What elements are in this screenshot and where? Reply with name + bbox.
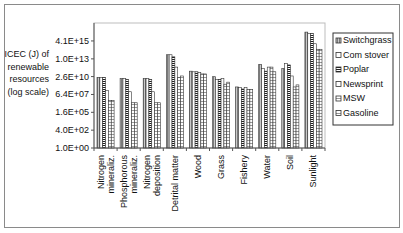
bar-switchgrass (305, 32, 308, 148)
legend-item: Com stover (336, 50, 389, 60)
x-tick-label-line: Soil (285, 155, 295, 170)
x-tick-label-line: Water (262, 155, 272, 179)
bar-newsprint (267, 67, 270, 148)
bar-gasoline (227, 82, 230, 148)
y-tick-label: 2.6E+10 (55, 72, 89, 82)
bar-poplar (103, 77, 106, 148)
bar-com-stover (308, 34, 311, 148)
x-tick-label: Soil (285, 155, 295, 170)
x-tick-label: Phosphorousmineraliz. (119, 155, 139, 209)
x-tick-label: Sunlight (308, 155, 318, 188)
legend-swatch (336, 38, 341, 43)
bar-newsprint (175, 67, 178, 148)
bar-newsprint (221, 79, 224, 148)
legend-item: Switchgrass (336, 35, 392, 45)
bar-gasoline (273, 72, 276, 148)
bar-switchgrass (97, 77, 100, 148)
bar-gasoline (296, 85, 299, 148)
y-axis-title-line: renewable (7, 62, 49, 72)
legend-swatch (336, 53, 341, 58)
bar-msw (270, 67, 273, 148)
legend-swatch (336, 111, 341, 116)
bar-poplar (126, 79, 129, 148)
bar-msw (247, 90, 250, 148)
y-axis-title: ICEC (J) ofrenewableresources(log scale) (5, 49, 50, 97)
bar-gasoline (157, 103, 160, 148)
bar-newsprint (129, 92, 132, 148)
legend-swatch (336, 96, 341, 101)
bar-com-stover (169, 55, 172, 148)
bar-newsprint (313, 44, 316, 148)
y-tick-label: 4.0E+02 (55, 125, 89, 135)
bar-gasoline (181, 76, 184, 148)
bar-msw (316, 49, 319, 148)
x-tick-label: Nitrogenmineraliz. (96, 155, 116, 194)
y-axis: 1.0E+004.0E+021.6E+056.4E+072.6E+101.0E+… (55, 23, 94, 153)
bar-msw (201, 74, 204, 148)
bar-newsprint (198, 73, 201, 148)
bar-gasoline (111, 101, 114, 148)
bar-poplar (149, 79, 152, 148)
x-tick-label-line: Phosphorous (119, 155, 129, 209)
x-tick-label-line: Fishery (239, 155, 249, 185)
x-tick-label-line: Sunlight (308, 155, 318, 188)
bar-newsprint (290, 76, 293, 148)
bar-com-stover (285, 64, 288, 148)
bar-switchgrass (120, 79, 123, 148)
bar-switchgrass (189, 71, 192, 148)
bar-msw (293, 87, 296, 148)
legend-swatch (336, 82, 341, 87)
bar-gasoline (134, 103, 137, 148)
y-tick-label: 1.0E+00 (55, 143, 89, 153)
bar-com-stover (262, 68, 265, 148)
legend-label: Gasoline (343, 108, 379, 118)
legend-label: Newsprint (343, 79, 384, 89)
chart-frame: ICEC (J) ofrenewableresources(log scale)… (4, 4, 400, 228)
bar-switchgrass (166, 55, 169, 148)
bar-gasoline (204, 74, 207, 148)
x-tick-label: Grass (216, 155, 226, 180)
bar-msw (155, 103, 158, 148)
x-tick-label: Wood (193, 155, 203, 178)
bar-msw (178, 77, 181, 148)
legend-swatch (336, 67, 341, 72)
y-tick-label: 1.0E+13 (55, 54, 89, 64)
bar-gasoline (250, 90, 253, 148)
bar-poplar (172, 57, 175, 148)
legend-label: MSW (343, 93, 366, 103)
x-tick-label-line: Detrital matter (170, 155, 180, 212)
y-tick-label: 4.1E+15 (55, 36, 89, 46)
bar-gasoline (319, 49, 322, 148)
bar-com-stover (238, 88, 241, 148)
bar-switchgrass (282, 68, 285, 148)
bar-poplar (311, 34, 314, 148)
y-tick-label: 6.4E+07 (55, 89, 89, 99)
bar-poplar (264, 71, 267, 148)
legend-label: Com stover (343, 50, 389, 60)
x-tick-label-line: mineraliz. (106, 155, 116, 194)
x-tick-label-line: deposition (152, 155, 162, 196)
bar-newsprint (106, 90, 109, 148)
legend-label: Switchgrass (343, 35, 392, 45)
bar-switchgrass (236, 87, 239, 148)
legend-label: Poplar (343, 64, 369, 74)
x-tick-label-line: mineraliz. (129, 155, 139, 194)
y-axis-title-line: ICEC (J) of (5, 49, 49, 59)
x-tick-label: Detrital matter (170, 155, 180, 212)
bar-com-stover (123, 79, 126, 148)
bar-msw (132, 103, 135, 148)
y-axis-title-line: (log scale) (7, 87, 49, 97)
x-tick-label: Water (262, 155, 272, 179)
bar-poplar (288, 65, 291, 148)
bar-com-stover (192, 72, 195, 148)
x-tick-label-line: Grass (216, 155, 226, 180)
bar-poplar (195, 72, 198, 148)
x-tick-label: Nitrogendeposition (142, 155, 162, 196)
x-axis: Nitrogenmineraliz.Phosphorousmineraliz.N… (94, 148, 325, 212)
bar-poplar (218, 79, 221, 148)
bar-switchgrass (143, 79, 146, 148)
bar-switchgrass (259, 64, 262, 148)
y-tick-label: 1.6E+05 (55, 107, 89, 117)
x-tick-label-line: Nitrogen (142, 155, 152, 189)
legend-item: Newsprint (336, 79, 384, 89)
